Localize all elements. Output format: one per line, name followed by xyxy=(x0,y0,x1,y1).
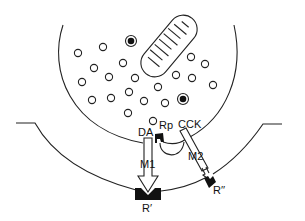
small-vesicle xyxy=(131,74,138,81)
dense-core xyxy=(180,96,187,103)
small-vesicle xyxy=(140,97,147,104)
small-vesicle xyxy=(125,88,132,95)
small-vesicle xyxy=(161,99,168,106)
small-vesicle xyxy=(154,83,161,90)
label-rp: Rp xyxy=(159,119,173,131)
small-vesicle xyxy=(119,59,126,66)
small-vesicle xyxy=(187,53,194,60)
small-vesicle xyxy=(78,78,85,85)
small-vesicle xyxy=(149,117,156,124)
label-m1: M1 xyxy=(140,158,155,170)
small-vesicle xyxy=(105,73,112,80)
small-vesicle xyxy=(188,74,195,81)
postsynaptic-membrane-middle xyxy=(161,178,205,191)
dense-core xyxy=(128,38,135,45)
label-cck: CCK xyxy=(178,118,202,130)
small-vesicle xyxy=(99,43,106,50)
vesicle-group xyxy=(74,36,216,125)
rp-receptor xyxy=(155,133,164,143)
small-vesicle xyxy=(209,81,216,88)
small-vesicle xyxy=(74,49,81,56)
small-vesicle xyxy=(107,94,114,101)
label-m2: M2 xyxy=(188,150,203,162)
small-vesicle xyxy=(88,96,95,103)
small-vesicle xyxy=(90,64,97,71)
label-r-prime: R′ xyxy=(142,202,152,214)
small-vesicle xyxy=(124,109,131,116)
label-r-double-prime: R′′ xyxy=(213,184,225,196)
postsynaptic-membrane-left xyxy=(16,123,136,190)
synapse-diagram: DA Rp CCK M1 M2 R′ R′′ xyxy=(0,0,305,221)
postsynaptic-membrane-right xyxy=(213,124,282,174)
label-da: DA xyxy=(138,126,154,138)
small-vesicle xyxy=(172,71,179,78)
mitochondrion xyxy=(135,9,203,82)
small-vesicle xyxy=(201,60,208,67)
presynaptic-membrane-right xyxy=(163,139,186,144)
